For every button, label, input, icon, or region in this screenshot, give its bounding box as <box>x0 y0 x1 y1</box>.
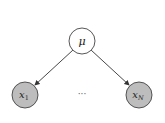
node-x1-subscript: 1 <box>25 94 29 102</box>
edge-mu-to-x1 <box>35 50 73 85</box>
graphical-model-diagram: μ x1 ··· xN <box>0 0 165 123</box>
node-xN: xN <box>126 82 152 108</box>
node-xN-subscript: N <box>137 94 144 102</box>
node-x1: x1 <box>12 82 38 108</box>
diagram-svg: μ x1 ··· xN <box>0 0 165 123</box>
edge-mu-to-xN <box>91 50 129 85</box>
node-mu-label: μ <box>78 35 85 48</box>
ellipsis: ··· <box>78 89 87 99</box>
node-mu: μ <box>69 28 95 54</box>
